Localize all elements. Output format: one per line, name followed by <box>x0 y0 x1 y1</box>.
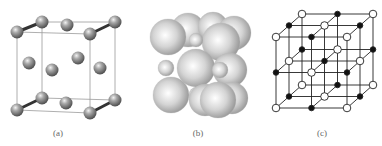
open-node <box>369 81 377 89</box>
filled-node <box>309 34 315 40</box>
panel-c-lattice <box>272 10 377 112</box>
open-node <box>298 81 306 89</box>
filled-node <box>286 94 292 100</box>
open-node <box>298 10 306 18</box>
large-sphere <box>153 77 189 113</box>
filled-node <box>309 105 315 111</box>
atom <box>109 16 122 29</box>
open-node <box>321 93 329 101</box>
caption-c: (c) <box>302 128 342 138</box>
large-sphere <box>200 82 236 118</box>
atom <box>11 26 24 39</box>
open-node <box>285 57 293 65</box>
caption-b: (b) <box>178 128 218 138</box>
filled-node <box>370 47 376 53</box>
filled-node <box>344 70 350 76</box>
open-node <box>272 104 280 112</box>
filled-node <box>286 23 292 29</box>
figure-canvas <box>0 0 382 146</box>
atom <box>109 94 122 107</box>
cell-edge <box>42 98 115 100</box>
large-sphere <box>150 19 186 55</box>
small-sphere <box>189 33 203 47</box>
filled-node <box>273 70 279 76</box>
atom <box>11 104 24 117</box>
atom <box>36 16 49 29</box>
atom <box>36 92 49 105</box>
filled-node <box>299 47 305 53</box>
atom <box>84 107 97 120</box>
filled-node <box>335 11 341 17</box>
atom <box>23 57 36 70</box>
open-node <box>356 57 364 65</box>
open-node <box>343 33 351 41</box>
filled-node <box>357 94 363 100</box>
caption-a: (a) <box>38 128 78 138</box>
filled-node <box>357 23 363 29</box>
cell-edge <box>17 32 90 34</box>
panel-a-unit-cell <box>11 16 122 120</box>
open-node <box>334 46 342 54</box>
panel-b-space-filling <box>150 12 251 118</box>
small-sphere <box>212 62 228 78</box>
atom <box>94 62 107 75</box>
atom <box>61 19 74 32</box>
filled-node <box>335 82 341 88</box>
open-node <box>308 69 316 77</box>
open-node <box>343 104 351 112</box>
open-node <box>321 22 329 30</box>
open-node <box>272 33 280 41</box>
small-sphere <box>158 60 174 76</box>
atom <box>60 97 73 110</box>
atom <box>84 28 97 41</box>
cell-edge <box>17 110 90 113</box>
atom <box>46 64 59 77</box>
open-node <box>369 10 377 18</box>
atom <box>72 52 85 65</box>
filled-node <box>322 58 328 64</box>
